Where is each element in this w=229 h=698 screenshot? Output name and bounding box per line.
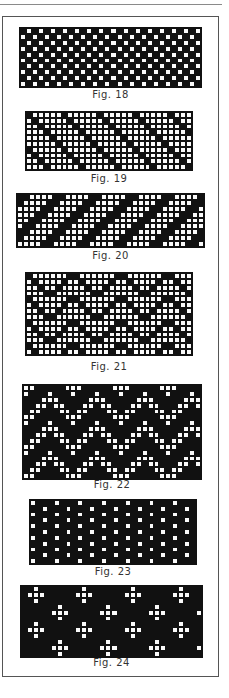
figure-caption: Fig. 18: [19, 89, 202, 100]
weave-draft-grid: [25, 111, 193, 171]
weave-draft-grid: [19, 27, 202, 88]
weave-draft-grid: [25, 272, 193, 356]
weave-draft-grid: [29, 499, 197, 565]
draft-cell: [186, 164, 192, 170]
top-rule: [0, 4, 222, 5]
weave-draft-grid: [22, 384, 202, 480]
draft-cell: [186, 349, 192, 355]
weave-draft-grid: [16, 193, 205, 248]
figure-caption: Fig. 24: [20, 657, 203, 668]
figure-caption: Fig. 20: [16, 250, 205, 261]
figure-caption: Fig. 21: [25, 361, 193, 372]
figure-caption: Fig. 22: [22, 479, 202, 490]
figure-caption: Fig. 19: [25, 173, 193, 184]
draft-cell: [190, 558, 196, 564]
weave-draft-grid: [20, 585, 203, 658]
figure-caption: Fig. 23: [29, 566, 197, 577]
draft-cell: [198, 241, 204, 247]
draft-cell: [195, 81, 201, 87]
